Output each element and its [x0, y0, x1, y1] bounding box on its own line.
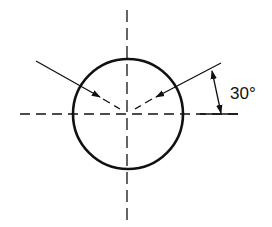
- left-leader-dashed: [103, 99, 120, 109]
- technical-drawing: 30°: [0, 0, 272, 227]
- angle-dimension-arrow: [212, 71, 221, 113]
- right-leader-dashed: [135, 99, 152, 109]
- angle-label: 30°: [230, 84, 256, 103]
- left-leader-line: [36, 61, 100, 97]
- right-leader-line: [156, 63, 221, 97]
